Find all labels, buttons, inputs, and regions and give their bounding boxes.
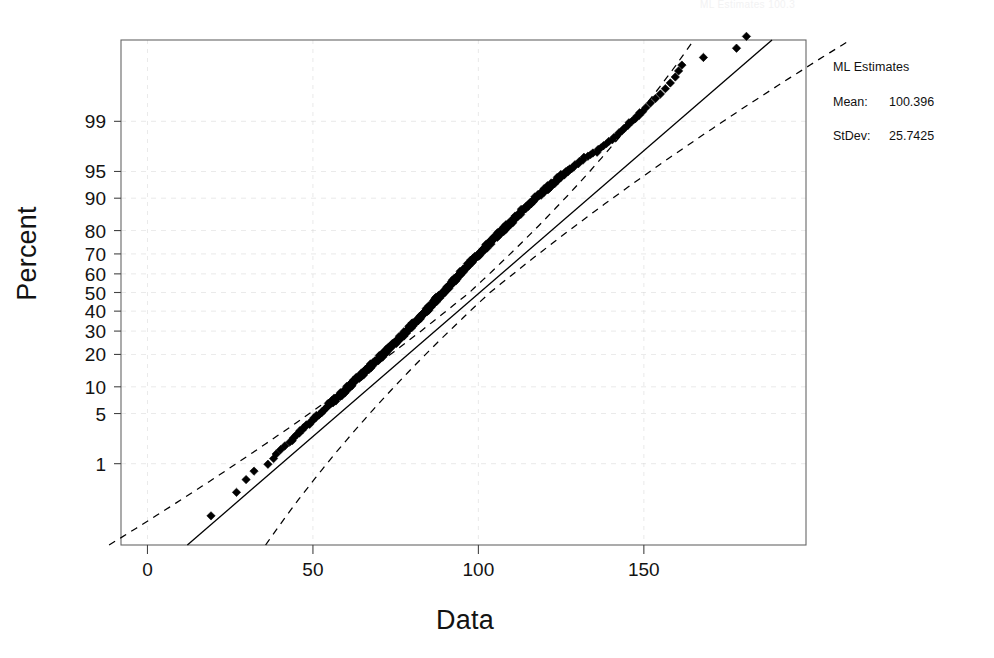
data-point-marker bbox=[207, 512, 215, 520]
data-point-marker bbox=[742, 32, 750, 40]
legend-title: ML Estimates bbox=[833, 60, 988, 74]
y-tick-label-group: 151020304050607080909599 bbox=[58, 0, 106, 658]
ml-estimates-legend: ML Estimates Mean: 100.396 StDev: 25.742… bbox=[833, 60, 988, 163]
legend-key-mean: Mean: bbox=[833, 95, 889, 109]
y-tick-label: 99 bbox=[62, 112, 106, 131]
tick-marks bbox=[114, 121, 644, 554]
x-axis-title: Data bbox=[405, 605, 525, 636]
y-axis-title: Percent bbox=[12, 194, 43, 314]
y-tick-label: 50 bbox=[62, 284, 106, 303]
legend-value-stdev: 25.7425 bbox=[889, 129, 988, 143]
x-tick-label: 0 bbox=[107, 560, 187, 579]
x-tick-label: 50 bbox=[273, 560, 353, 579]
grid-lines bbox=[121, 40, 806, 545]
x-tick-label: 150 bbox=[604, 560, 684, 579]
y-tick-label: 80 bbox=[62, 222, 106, 241]
y-tick-label: 40 bbox=[62, 302, 106, 321]
legend-key-stdev: StDev: bbox=[833, 129, 889, 143]
data-point-marker bbox=[264, 460, 272, 468]
y-tick-label: 20 bbox=[62, 345, 106, 364]
data-point-marker bbox=[732, 44, 740, 52]
legend-row-mean: Mean: 100.396 bbox=[833, 95, 988, 109]
x-tick-label: 100 bbox=[438, 560, 518, 579]
data-point-marker bbox=[666, 79, 674, 87]
y-tick-label: 10 bbox=[62, 378, 106, 397]
y-tick-label: 60 bbox=[62, 265, 106, 284]
y-tick-label: 70 bbox=[62, 245, 106, 264]
y-tick-label: 1 bbox=[62, 455, 106, 474]
legend-value-mean: 100.396 bbox=[889, 95, 988, 109]
legend-row-stdev: StDev: 25.7425 bbox=[833, 129, 988, 143]
y-tick-label: 30 bbox=[62, 322, 106, 341]
data-point-marker bbox=[242, 475, 250, 483]
y-tick-label: 5 bbox=[62, 405, 106, 424]
data-point-marker bbox=[699, 53, 707, 61]
data-point-marker bbox=[250, 467, 258, 475]
normal-probability-plot-figure: ML Estimates 100.3 151020304050607080909… bbox=[0, 0, 994, 658]
y-tick-label: 90 bbox=[62, 189, 106, 208]
data-point-marker bbox=[232, 488, 240, 496]
y-tick-label: 95 bbox=[62, 162, 106, 181]
